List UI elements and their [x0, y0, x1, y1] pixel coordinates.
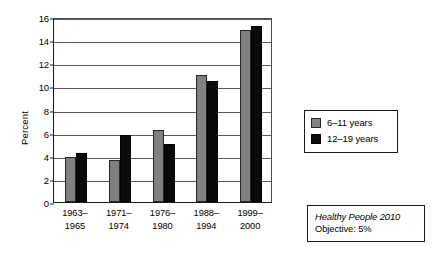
bar[interactable] — [76, 153, 87, 202]
y-axis-title: Percent — [19, 110, 30, 144]
y-axis-tick-label: 6 — [44, 130, 49, 140]
y-axis-tick-label: 8 — [44, 107, 49, 117]
y-axis-tick-mark — [50, 42, 54, 43]
y-axis-tick-mark — [50, 134, 54, 135]
legend-item-label: 6–11 years — [327, 118, 372, 128]
bar[interactable] — [109, 160, 120, 202]
bar[interactable] — [196, 75, 207, 202]
y-axis-tick-mark — [50, 88, 54, 89]
y-axis-tick-label: 2 — [44, 176, 49, 186]
bar[interactable] — [251, 26, 262, 202]
annotation-objective: Objective: 5% — [315, 223, 417, 235]
bar[interactable] — [65, 157, 76, 202]
gray-swatch-icon — [311, 118, 321, 128]
x-axis-tick-label-line: 2000 — [220, 220, 280, 233]
y-axis-tick-label: 14 — [39, 37, 49, 47]
bar-group — [196, 19, 218, 202]
bar[interactable] — [153, 130, 164, 202]
legend-item-6-11-years[interactable]: 6–11 years — [311, 115, 391, 131]
bar-group — [153, 19, 175, 202]
y-axis-tick-label: 12 — [39, 61, 49, 71]
bar-group — [240, 19, 262, 202]
y-axis-tick-label: 16 — [39, 14, 49, 24]
bar[interactable] — [120, 135, 131, 202]
bar[interactable] — [240, 30, 251, 202]
plot-area: 0246810121416 — [53, 18, 272, 203]
chart-legend: 6–11 years 12–19 years — [304, 110, 398, 153]
bar-group — [65, 19, 87, 202]
y-axis-tick-mark — [50, 204, 54, 205]
legend-item-12-19-years[interactable]: 12–19 years — [311, 131, 391, 147]
x-axis-tick-label: 1999–2000 — [220, 207, 280, 232]
legend-item-label: 12–19 years — [327, 134, 378, 144]
y-axis-tick-mark — [50, 19, 54, 20]
y-axis-tick-label: 10 — [39, 84, 49, 94]
x-axis-tick-label-line: 1999– — [220, 207, 280, 220]
annotation-box: Healthy People 2010 Objective: 5% — [307, 205, 425, 242]
y-axis-tick-mark — [50, 111, 54, 112]
y-axis-tick-mark — [50, 65, 54, 66]
bar[interactable] — [164, 144, 175, 202]
bar-group — [109, 19, 131, 202]
y-axis-tick-label: 4 — [44, 153, 49, 163]
bar[interactable] — [207, 81, 218, 202]
y-axis-tick-mark — [50, 157, 54, 158]
y-axis-tick-mark — [50, 180, 54, 181]
annotation-title: Healthy People 2010 — [315, 211, 417, 223]
black-swatch-icon — [311, 134, 321, 144]
